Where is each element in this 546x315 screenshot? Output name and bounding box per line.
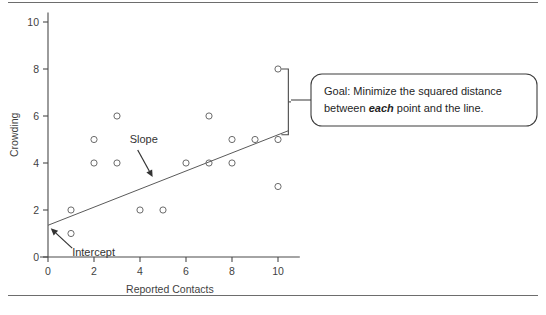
y-tick-label-0: 0 — [33, 251, 39, 263]
data-point-4-x3-y6 — [114, 113, 120, 119]
y-tick-label-4: 4 — [33, 157, 39, 169]
callout-line-2-suffix: point and the line. — [394, 102, 484, 114]
data-point-3-x2-y4 — [91, 160, 97, 166]
figure-page: 02468100246810 Reported Contacts Crowdin… — [0, 0, 546, 315]
annotation-arrow-slope — [138, 150, 150, 171]
x-tick-label-4: 4 — [137, 265, 143, 277]
data-point-7-x5-y2 — [160, 207, 166, 213]
y-tick-label-6: 6 — [33, 110, 39, 122]
annotations-group: SlopeIntercept — [51, 133, 158, 258]
data-point-13-x9-y5 — [252, 136, 258, 142]
data-point-15-x10-y5 — [275, 136, 281, 142]
annotation-arrow-intercept — [56, 233, 72, 248]
x-tick-label-2: 2 — [91, 265, 97, 277]
callout-line-2-prefix: between — [324, 102, 369, 114]
x-tick-label-10: 10 — [272, 265, 284, 277]
data-point-11-x8-y5 — [229, 136, 235, 142]
x-axis-title: Reported Contacts — [126, 283, 214, 295]
data-point-16-x10-y3 — [275, 183, 281, 189]
bracket-path — [281, 69, 288, 135]
callout-line-2: between each point and the line. — [324, 102, 484, 114]
data-point-9-x7-y6 — [206, 113, 212, 119]
scatter-plot-figure: 02468100246810 Reported Contacts Crowdin… — [0, 0, 546, 315]
residual-bracket — [281, 69, 291, 135]
x-tick-label-0: 0 — [45, 265, 51, 277]
data-point-2-x2-y5 — [91, 136, 97, 142]
data-point-5-x3-y4 — [114, 160, 120, 166]
callout-box — [311, 74, 537, 126]
data-point-6-x4-y2 — [137, 207, 143, 213]
x-tick-label-8: 8 — [229, 265, 235, 277]
x-tick-label-6: 6 — [183, 265, 189, 277]
data-point-8-x6-y4 — [183, 160, 189, 166]
tick-labels-group: 02468100246810 — [27, 16, 284, 277]
y-tick-label-8: 8 — [33, 63, 39, 75]
data-point-1-x1-y1 — [68, 230, 74, 236]
callout-line-2-emphasis: each — [369, 102, 394, 114]
data-point-0-x1-y2 — [68, 207, 74, 213]
regression-line — [48, 131, 288, 226]
data-point-14-x10-y8 — [275, 66, 281, 72]
callout-group: Goal: Minimize the squared distance betw… — [291, 74, 537, 126]
y-tick-label-10: 10 — [27, 16, 39, 28]
fit-line-path — [48, 131, 288, 226]
y-tick-label-2: 2 — [33, 204, 39, 216]
axes-group — [40, 13, 300, 262]
data-point-12-x8-y4 — [229, 160, 235, 166]
annotation-label-slope: Slope — [130, 133, 158, 145]
y-axis-title: Crowding — [8, 112, 20, 157]
callout-line-1: Goal: Minimize the squared distance — [324, 85, 502, 97]
data-points-group — [68, 66, 281, 237]
annotation-label-intercept: Intercept — [72, 246, 115, 258]
